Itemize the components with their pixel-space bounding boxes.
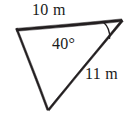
triangle-figure: 10 m 40° 11 m: [0, 0, 133, 119]
label-side-top: 10 m: [32, 2, 66, 18]
label-side-right: 11 m: [85, 66, 118, 82]
triangle-drawing: [0, 0, 133, 119]
label-angle-40: 40°: [52, 36, 75, 52]
triangle-side-left: [16, 28, 49, 110]
